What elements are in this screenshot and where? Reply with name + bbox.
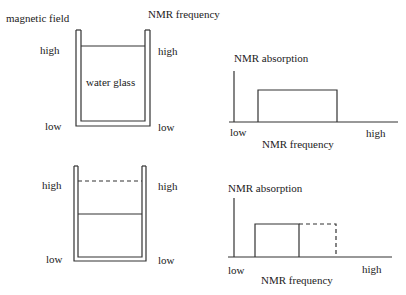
chart1-x-low: low: [230, 126, 247, 138]
glass1-left-low: low: [45, 120, 62, 132]
diagram-canvas: [0, 0, 406, 295]
absorption-band-solid: [255, 224, 299, 257]
magnetic-field-label: magnetic field: [6, 12, 69, 24]
water-glass-2: [74, 166, 146, 261]
glass2-left-high: high: [42, 179, 62, 191]
chart1-ylabel: NMR absorption: [234, 52, 308, 64]
chart1-xlabel: NMR frequency: [262, 138, 334, 150]
glass1-left-high: high: [40, 44, 60, 56]
glass2-right-high: high: [158, 180, 178, 192]
chart2-x-high: high: [362, 263, 382, 275]
glass2-right-low: low: [158, 254, 175, 266]
water-glass-label: water glass: [86, 76, 135, 88]
glass1-right-high: high: [158, 45, 178, 57]
absorption-band-dashed: [299, 224, 336, 257]
chart1-x-high: high: [366, 127, 386, 139]
absorption-chart-2: [228, 198, 392, 257]
nmr-frequency-top-label: NMR frequency: [148, 8, 220, 20]
glass2-left-low: low: [46, 253, 63, 265]
chart2-ylabel: NMR absorption: [228, 182, 302, 194]
absorption-band: [258, 90, 337, 122]
chart2-x-low: low: [228, 264, 245, 276]
chart2-xlabel: NMR frequency: [261, 274, 333, 286]
glass1-right-low: low: [158, 121, 175, 133]
absorption-chart-1: [229, 71, 398, 122]
